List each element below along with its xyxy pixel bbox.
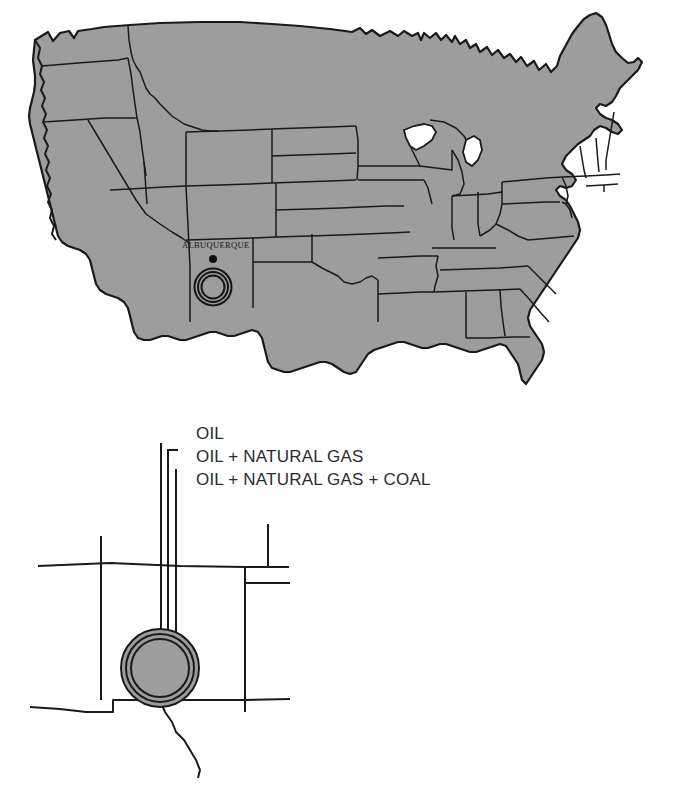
us-landmass xyxy=(29,13,642,384)
inset-resource-rings xyxy=(121,629,199,707)
legend-item-oil: OIL xyxy=(196,424,224,443)
legend-leader-lines xyxy=(161,443,178,648)
inset-north-border xyxy=(38,563,289,567)
legend-item-oil-natural-gas: OIL + NATURAL GAS xyxy=(196,447,364,466)
resource-basin-map-figure: ALBUQUERQUE OIL OIL + NATURAL GAS OIL + … xyxy=(0,0,673,788)
legend: OIL OIL + NATURAL GAS OIL + NATURAL GAS … xyxy=(161,424,431,648)
main-us-map: ALBUQUERQUE xyxy=(29,13,642,384)
inset-ring-outer-fill xyxy=(121,629,199,707)
albuquerque-label: ALBUQUERQUE xyxy=(182,240,250,250)
legend-item-oil-natural-gas-coal: OIL + NATURAL GAS + COAL xyxy=(196,470,431,489)
albuquerque-city-dot xyxy=(209,255,217,263)
rio-grande-river xyxy=(160,700,200,778)
